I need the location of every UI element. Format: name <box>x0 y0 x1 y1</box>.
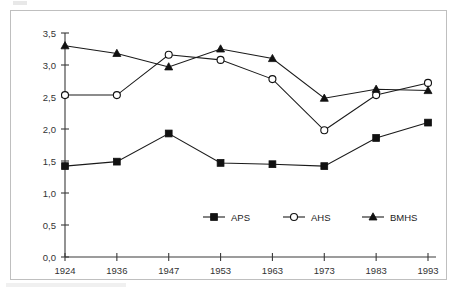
chart-figure: 0,00,51,01,52,02,53,03,51924193619471953… <box>0 0 457 292</box>
chart-plot-frame <box>10 10 447 280</box>
scan-artifact-bottom <box>6 283 126 287</box>
legend-ahs-circle-marker <box>291 214 298 221</box>
legend-label-bmhs: BMHS <box>390 212 417 223</box>
legend-label-ahs: AHS <box>311 212 331 223</box>
scan-artifact-top <box>13 1 27 5</box>
legend-aps-square-marker <box>211 214 218 221</box>
legend-label-aps: APS <box>231 212 250 223</box>
